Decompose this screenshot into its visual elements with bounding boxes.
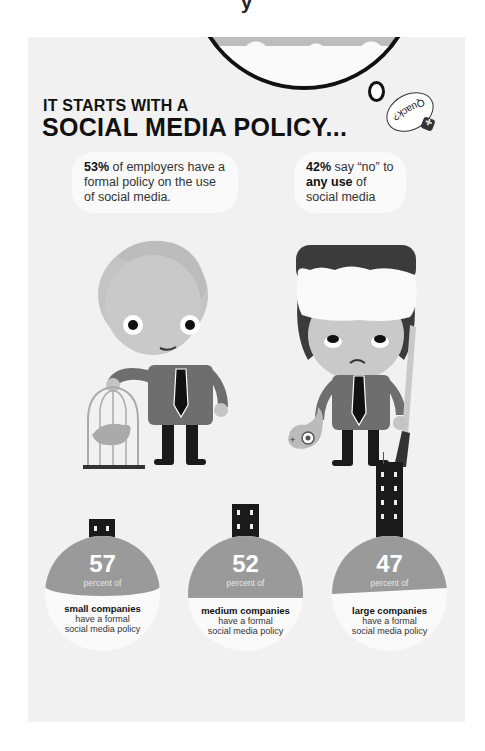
svg-text:+: + [290,435,295,445]
employee-with-birdcage-illustration [78,235,248,470]
antenna [383,452,384,464]
stat-circle-small-companies: 57 percent of small companies have a for… [45,536,160,651]
stat-circle-large-companies: 47 percent of large companies have a for… [332,536,447,651]
section-title-line2: SOCIAL MEDIA POLICY... [42,113,347,142]
ornament-icon [368,81,385,102]
stat-circle-medium-companies: 52 percent of medium companies have a fo… [188,536,303,651]
quote-bubble-say-no: 42% say “no” to any use of social media [294,152,406,213]
infographic-panel: Quack? IT STARTS WITH A SOCIAL MEDIA POL… [28,37,465,722]
quack-speech-bubble: Quack? [379,84,440,139]
quote-bubble-employers-policy: 53% of employers have a formal policy on… [72,152,238,213]
large-building-icon [376,462,403,543]
twitter-bird-icon [92,424,131,446]
cropped-heading-fragment: y [241,0,252,14]
hunter-with-rifle-illustration: + [280,235,440,470]
duck-icon [420,116,435,131]
snow-globe-illustration [190,37,418,90]
